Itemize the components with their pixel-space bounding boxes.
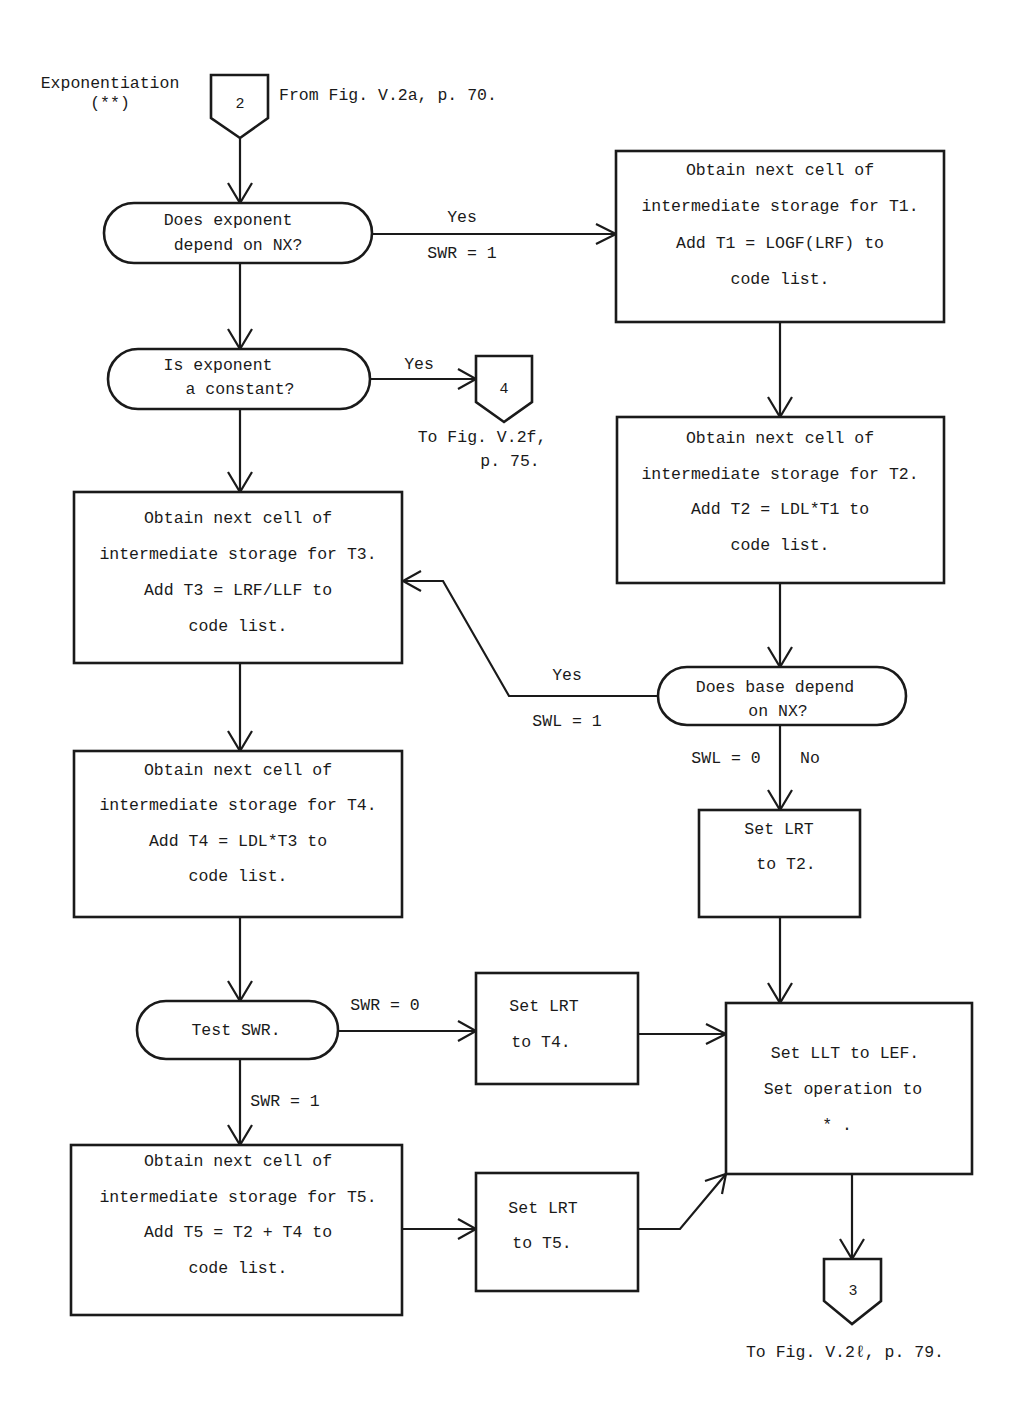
process-text-line: code list. (188, 867, 287, 886)
decision-text-line-2: a constant? (186, 380, 295, 399)
process-text-line: Set LLT to LEF. (771, 1044, 920, 1063)
process-text-line: Set operation to (764, 1080, 922, 1099)
decision-text-line-2: depend on NX? (174, 236, 303, 255)
process-t2: Obtain next cell of intermediate storage… (617, 417, 944, 583)
process-text-line: Set LRT (744, 820, 813, 839)
decision-text-line-1: Does base depend (696, 678, 854, 697)
connector-to-constant: 4 (476, 356, 532, 422)
entry-connector: 2 (211, 75, 268, 138)
decision-text-line-2: on NX? (748, 702, 807, 721)
edge-label-swr-1: SWR = 1 (427, 244, 496, 263)
process-text-line: * . (822, 1116, 852, 1135)
decision-base-depends-nx: Does base depend on NX? (658, 667, 906, 725)
process-text-line: intermediate storage for T3. (99, 545, 376, 564)
process-text-line: Obtain next cell of (686, 429, 874, 448)
process-text-line: Obtain next cell of (144, 1152, 332, 1171)
process-text-line: Add T4 = LDL*T3 to (149, 832, 327, 851)
process-text-line: Obtain next cell of (144, 761, 332, 780)
process-text-line: Add T1 = LOGF(LRF) to (676, 234, 884, 253)
process-text-line: Add T2 = LDL*T1 to (691, 500, 869, 519)
process-set-lrt-t2: Set LRT to T2. (699, 810, 860, 917)
process-text-line: to T5. (512, 1234, 571, 1253)
edge-label-swr-0: SWR = 0 (350, 996, 419, 1015)
edge-label-yes: Yes (404, 355, 434, 374)
decision-text-line-1: Is exponent (164, 356, 273, 375)
process-text-line: intermediate storage for T5. (99, 1188, 376, 1207)
edge-label-yes: Yes (552, 666, 582, 685)
process-text-line: code list. (188, 617, 287, 636)
process-text-line: intermediate storage for T4. (99, 796, 376, 815)
connector-note-line-2: p. 75. (480, 452, 539, 471)
exit-connector: 3 (824, 1259, 881, 1324)
flow-line (638, 1174, 726, 1229)
edge-label-swl-0: SWL = 0 (691, 749, 760, 768)
connector-label: 4 (499, 381, 508, 398)
process-text-line: intermediate storage for T2. (641, 465, 918, 484)
entry-connector-note: From Fig. V.2a, p. 70. (279, 86, 497, 105)
process-text-line: Set LRT (508, 1199, 577, 1218)
title-line-1: Exponentiation (41, 74, 180, 93)
entry-connector-label: 2 (235, 96, 244, 113)
process-text-line: to T4. (511, 1033, 570, 1052)
process-text-line: code list. (730, 536, 829, 555)
decision-test-swr: Test SWR. (137, 1001, 338, 1059)
process-t1: Obtain next cell of intermediate storage… (616, 151, 944, 322)
process-set-lrt-t5: Set LRT to T5. (476, 1173, 638, 1291)
edge-label-swr-1: SWR = 1 (250, 1092, 319, 1111)
process-t5: Obtain next cell of intermediate storage… (71, 1145, 402, 1315)
decision-exponent-depends-nx: Does exponent depend on NX? (104, 203, 372, 263)
process-t4: Obtain next cell of intermediate storage… (74, 751, 402, 917)
exit-connector-note: To Fig. V.2ℓ, p. 79. (746, 1343, 944, 1362)
edge-label-no: No (800, 749, 820, 768)
process-text-line: Set LRT (509, 997, 578, 1016)
process-text-line: code list. (188, 1259, 287, 1278)
process-text-line: to T2. (756, 855, 815, 874)
edge-label-yes: Yes (447, 208, 477, 227)
process-set-lrt-t4: Set LRT to T4. (476, 973, 638, 1084)
exit-connector-label: 3 (848, 1283, 857, 1300)
process-text-line: code list. (730, 270, 829, 289)
process-text-line: Obtain next cell of (144, 509, 332, 528)
decision-text-line-1: Does exponent (164, 211, 293, 230)
process-shape (476, 1173, 638, 1291)
process-shape (476, 973, 638, 1084)
decision-text-line-1: Test SWR. (191, 1021, 280, 1040)
process-text-line: Add T5 = T2 + T4 to (144, 1223, 332, 1242)
title-line-2: (**) (90, 94, 130, 113)
process-t3: Obtain next cell of intermediate storage… (74, 492, 402, 663)
process-text-line: Obtain next cell of (686, 161, 874, 180)
flow-line (403, 581, 658, 696)
decision-exponent-constant: Is exponent a constant? (108, 349, 370, 409)
connector-note-line-1: To Fig. V.2f, (418, 428, 547, 447)
process-text-line: Add T3 = LRF/LLF to (144, 581, 332, 600)
process-text-line: intermediate storage for T1. (641, 197, 918, 216)
process-set-llt: Set LLT to LEF. Set operation to * . (726, 1003, 972, 1174)
edge-label-swl-1: SWL = 1 (532, 712, 601, 731)
exponentiation-flowchart: Exponentiation (**) 2 From Fig. V.2a, p.… (0, 0, 1027, 1425)
